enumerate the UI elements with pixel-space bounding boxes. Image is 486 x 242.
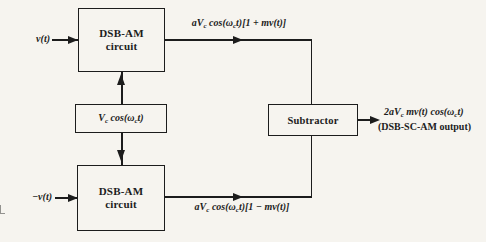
- top-output-label: aVc cos(ωct)[1 + mv(t)]: [183, 17, 295, 30]
- block-diagram: DSB-AM circuit Vc cos(ωct) DSB-AM circui…: [0, 0, 486, 242]
- dsb-am-top-block: DSB-AM circuit: [78, 8, 165, 72]
- oscillator-to-bottom-arrowhead-icon: [117, 150, 125, 161]
- input-top-arrowhead-icon: [68, 36, 78, 44]
- bottom-output-label: aVc cos(ωct)[1 − mv(t)]: [186, 201, 298, 214]
- input-top-label: v(t): [14, 33, 50, 44]
- top-branch-vline: [311, 39, 313, 104]
- subtractor-label: Subtractor: [288, 114, 339, 127]
- final-output-label-line2: (DSB-SC-AM output): [378, 121, 471, 132]
- page-margin-mark: [0, 205, 5, 214]
- dsb-am-bottom-label-line1: DSB-AM: [99, 185, 144, 198]
- oscillator-to-top-arrowhead-icon: [117, 74, 125, 85]
- carrier-oscillator-label: Vc cos(ωct): [98, 112, 143, 125]
- carrier-oscillator-block: Vc cos(ωct): [75, 104, 167, 133]
- dsb-am-bottom-label-line2: circuit: [105, 198, 137, 211]
- final-output-label-line1: 2aVc mv(t) cos(ωct): [384, 106, 464, 119]
- input-bottom-label: −v(t): [10, 191, 52, 202]
- top-branch-arrowhead-icon: [233, 36, 243, 44]
- subtractor-block: Subtractor: [268, 104, 358, 136]
- dsb-am-top-label-line2: circuit: [106, 40, 138, 53]
- dsb-am-top-label-line1: DSB-AM: [99, 27, 144, 40]
- input-bottom-arrowhead-icon: [68, 194, 78, 202]
- bottom-branch-arrowhead-icon: [233, 193, 243, 201]
- bottom-branch-vline: [311, 136, 313, 198]
- dsb-am-bottom-block: DSB-AM circuit: [77, 165, 165, 231]
